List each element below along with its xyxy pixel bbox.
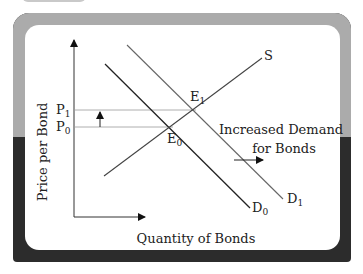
d1-label: D1 — [287, 191, 303, 208]
x-axis-label: Quantity of Bonds — [137, 231, 256, 246]
bond-market-diagram: Price per Bond Quantity of Bonds P1 P0 S… — [0, 0, 363, 274]
annotation-line1: Increased Demand — [219, 122, 343, 137]
supply-label: S — [264, 48, 273, 63]
p1-label: P1 — [56, 102, 70, 119]
annotation-line2: for Bonds — [252, 141, 316, 156]
e0-label: E0 — [167, 131, 183, 148]
d0-label: D0 — [252, 200, 268, 217]
y-axis-label: Price per Bond — [35, 103, 50, 202]
p0-label: P0 — [56, 119, 71, 136]
e1-label: E1 — [190, 89, 205, 106]
supply-curve — [104, 58, 262, 176]
